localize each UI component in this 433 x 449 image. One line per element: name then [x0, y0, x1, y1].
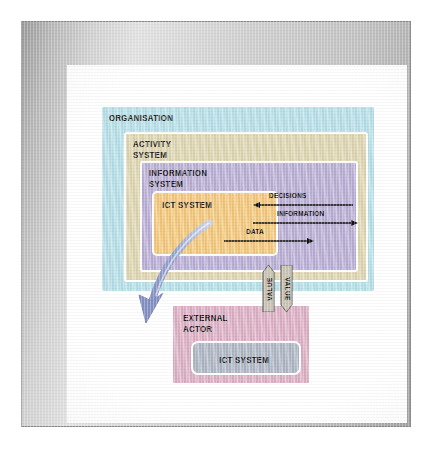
- ict-system-external-label: ICT SYSTEM: [219, 355, 269, 366]
- decisions-flow: DECISIONS: [253, 193, 353, 207]
- value-arrow-down: VALUE: [280, 265, 293, 312]
- activity-system-label: ACTIVITY SYSTEM: [133, 139, 171, 160]
- information-flow: INFORMATION: [253, 211, 358, 225]
- organisation-label: ORGANISATION: [109, 113, 173, 124]
- value-down-label: VALUE: [283, 277, 290, 301]
- information-arrow-icon: [253, 219, 358, 227]
- ict-to-external-actor-arrow-icon: [127, 215, 257, 340]
- value-up-label: VALUE: [265, 277, 272, 301]
- information-flow-label: INFORMATION: [277, 210, 325, 217]
- value-arrow-up: VALUE: [262, 265, 275, 312]
- silver-border-frame: ORGANISATION ACTIVITY SYSTEM INFORMATION…: [21, 21, 411, 427]
- decisions-flow-label: DECISIONS: [269, 192, 306, 199]
- ict-system-inner-label: ICT SYSTEM: [162, 200, 212, 211]
- decisions-arrow-icon: [253, 201, 353, 209]
- information-system-label: INFORMATION SYSTEM: [149, 168, 207, 189]
- ict-system-external-box[interactable]: ICT SYSTEM: [191, 341, 301, 375]
- diagram-canvas: ORGANISATION ACTIVITY SYSTEM INFORMATION…: [67, 65, 407, 423]
- screenshot-frame: ORGANISATION ACTIVITY SYSTEM INFORMATION…: [0, 0, 433, 449]
